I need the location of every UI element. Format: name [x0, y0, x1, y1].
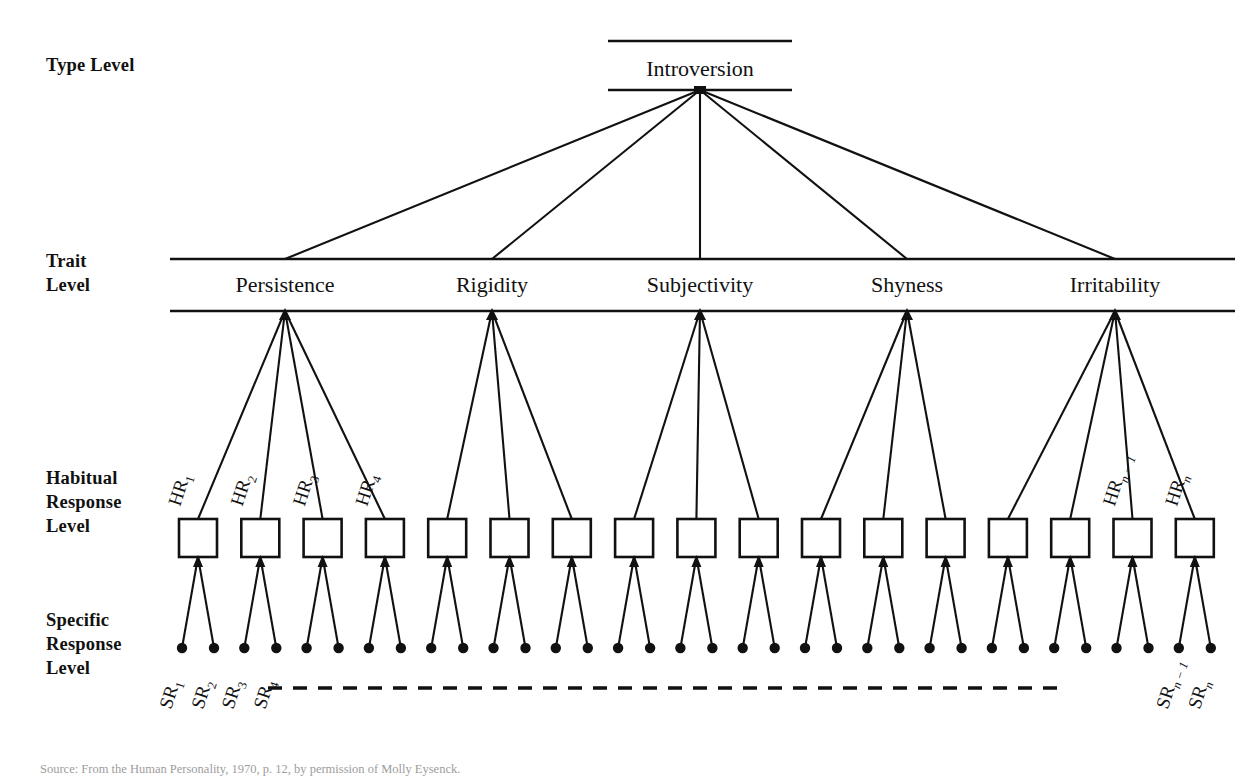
hr-sr-link-4-0 [431, 557, 447, 648]
sr-dot-19[interactable] [770, 643, 780, 653]
sr-dot-4[interactable] [301, 643, 311, 653]
level-label-trait: Trait Level [46, 249, 90, 297]
hr-sr-link-13-0 [992, 557, 1008, 648]
hr-sr-link-1-0 [244, 557, 260, 648]
hr-sr-link-0-0 [182, 557, 198, 648]
trait-hr-link-1-2 [492, 311, 572, 519]
hr-sr-link-12-0 [930, 557, 946, 648]
sr-dot-2[interactable] [239, 643, 249, 653]
sr-dot-10[interactable] [488, 643, 498, 653]
sr-code-label-1-text: SR2 [187, 677, 220, 713]
sr-dot-23[interactable] [894, 643, 904, 653]
hr-sr-link-16-1 [1195, 557, 1211, 648]
sr-dot-30[interactable] [1111, 643, 1121, 653]
hr-sr-link-6-0 [556, 557, 572, 648]
hr-box-4[interactable] [428, 519, 466, 557]
sr-code-label-2-text: SR3 [217, 677, 250, 713]
hr-box-2[interactable] [304, 519, 342, 557]
sr-dot-20[interactable] [800, 643, 810, 653]
hr-sr-link-16-0 [1179, 557, 1195, 648]
hr-box-15[interactable] [1114, 519, 1152, 557]
source-caption: Source: From the Human Personality, 1970… [40, 762, 1140, 777]
hr-box-3[interactable] [366, 519, 404, 557]
sr-dot-32[interactable] [1174, 643, 1184, 653]
sr-dot-6[interactable] [364, 643, 374, 653]
sr-dot-31[interactable] [1143, 643, 1153, 653]
sr-dot-1[interactable] [209, 643, 219, 653]
sr-code-label-2: SR3 [217, 677, 250, 713]
hr-box-14[interactable] [1051, 519, 1089, 557]
hr-to-sr-links [182, 555, 1211, 648]
hr-sr-link-14-0 [1054, 557, 1070, 648]
sr-dot-27[interactable] [1019, 643, 1029, 653]
sr-dot-26[interactable] [987, 643, 997, 653]
specific-response-dots [177, 643, 1216, 653]
hr-sr-link-7-1 [634, 557, 650, 648]
hr-box-11[interactable] [864, 519, 902, 557]
sr-dot-8[interactable] [426, 643, 436, 653]
level-label-habitual-response: Habitual Response Level [46, 466, 122, 538]
hr-box-0[interactable] [179, 519, 217, 557]
sr-dot-5[interactable] [333, 643, 343, 653]
hr-sr-link-9-0 [743, 557, 759, 648]
sr-dot-33[interactable] [1206, 643, 1216, 653]
hr-code-label-15-text: HRn − 1 [1098, 451, 1138, 510]
trait-label-1: Rigidity [456, 272, 528, 297]
hr-code-label-3-text: HR4 [351, 470, 385, 509]
hr-sr-link-0-1 [198, 557, 214, 648]
level-label-specific-response: Specific Response Level [46, 608, 122, 680]
hr-box-1[interactable] [241, 519, 279, 557]
sr-code-label-1: SR2 [187, 677, 220, 713]
sr-code-label-33-text: SRn [1184, 677, 1217, 713]
sr-dot-25[interactable] [956, 643, 966, 653]
hr-sr-link-7-0 [618, 557, 634, 648]
sr-dot-22[interactable] [862, 643, 872, 653]
sr-code-label-0-text: SR1 [155, 677, 188, 713]
level-label-type: Type Level [46, 53, 135, 77]
hr-sr-link-4-1 [447, 557, 463, 648]
hr-sr-link-13-1 [1008, 557, 1024, 648]
hr-code-label-15: HRn − 1 [1098, 451, 1138, 510]
response-code-labels: HR1HR2HR3HR4HRn − 1HRnSR1SR2SR3SR4SRn − … [155, 451, 1217, 713]
sr-dot-16[interactable] [675, 643, 685, 653]
hr-sr-link-11-0 [867, 557, 883, 648]
sr-dot-11[interactable] [520, 643, 530, 653]
hr-box-8[interactable] [677, 519, 715, 557]
hr-sr-link-5-0 [494, 557, 510, 648]
hr-code-label-1-text: HR2 [226, 471, 260, 510]
hr-sr-link-8-0 [680, 557, 696, 648]
sr-dot-14[interactable] [613, 643, 623, 653]
hr-box-10[interactable] [802, 519, 840, 557]
hr-code-label-1: HR2 [226, 471, 260, 510]
sr-dot-9[interactable] [458, 643, 468, 653]
hr-sr-link-10-1 [821, 557, 837, 648]
sr-dot-29[interactable] [1081, 643, 1091, 653]
hr-sr-link-14-1 [1070, 557, 1086, 648]
hr-box-5[interactable] [491, 519, 529, 557]
hr-box-6[interactable] [553, 519, 591, 557]
hr-code-label-3: HR4 [351, 470, 385, 509]
sr-dot-17[interactable] [707, 643, 717, 653]
trait-hr-link-2-1 [696, 311, 700, 519]
hr-box-16[interactable] [1176, 519, 1214, 557]
trait-hr-link-2-0 [634, 311, 700, 519]
sr-dot-21[interactable] [832, 643, 842, 653]
sr-dot-28[interactable] [1049, 643, 1059, 653]
sr-dot-12[interactable] [551, 643, 561, 653]
sr-dot-7[interactable] [396, 643, 406, 653]
sr-dot-18[interactable] [738, 643, 748, 653]
hr-sr-link-15-0 [1117, 557, 1133, 648]
hr-sr-link-3-0 [369, 557, 385, 648]
hr-box-12[interactable] [927, 519, 965, 557]
hr-box-13[interactable] [989, 519, 1027, 557]
hr-box-7[interactable] [615, 519, 653, 557]
hr-sr-link-8-1 [696, 557, 712, 648]
sr-dot-3[interactable] [271, 643, 281, 653]
hr-box-9[interactable] [740, 519, 778, 557]
sr-dot-15[interactable] [645, 643, 655, 653]
sr-dot-0[interactable] [177, 643, 187, 653]
trait-label-0: Persistence [236, 272, 335, 297]
sr-dot-24[interactable] [924, 643, 934, 653]
sr-dot-13[interactable] [583, 643, 593, 653]
figure-root: Introversion PersistenceRigiditySubjecti… [0, 0, 1255, 781]
